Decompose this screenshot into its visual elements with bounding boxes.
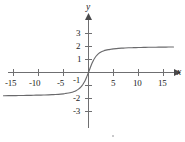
x-tick-label-15: 15 [158, 79, 167, 88]
coordinate-plot [0, 0, 185, 142]
y-tick-label--3: -3 [73, 107, 80, 116]
x-tick-label-5: 5 [111, 79, 115, 88]
page-speck [112, 135, 114, 137]
y-axis-label: y [86, 3, 90, 13]
y-tick-label-2: 2 [76, 42, 80, 51]
graph-figure: -15 -10 -5 5 10 15 3 2 1 -1 -2 -3 x y [0, 0, 185, 142]
x-axis-label: x [177, 68, 181, 78]
x-tick-label-10: 10 [133, 79, 142, 88]
y-tick-label--2: -2 [73, 94, 80, 103]
x-tick-label--15: -15 [5, 79, 16, 88]
x-tick-label--10: -10 [29, 79, 40, 88]
y-axis-arrowhead [85, 13, 92, 20]
y-tick-label-3: 3 [76, 29, 80, 38]
x-tick-label--5: -5 [57, 79, 64, 88]
y-tick-label-1: 1 [77, 55, 81, 64]
y-tick-label--1: -1 [73, 76, 80, 85]
